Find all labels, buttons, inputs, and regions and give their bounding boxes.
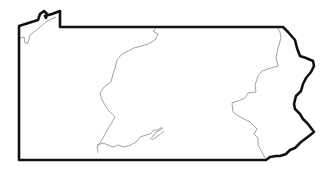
eastern-divide-line <box>232 27 281 158</box>
state-border <box>19 11 314 160</box>
internal-boundaries <box>20 17 281 158</box>
pennsylvania-map <box>0 0 332 173</box>
